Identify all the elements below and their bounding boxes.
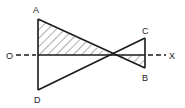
label-C: C — [142, 26, 149, 36]
label-O: O — [6, 51, 13, 61]
label-A: A — [33, 5, 39, 15]
label-B: B — [142, 73, 148, 83]
diagram-canvas: A D C B O X — [0, 0, 185, 108]
label-D: D — [34, 95, 41, 105]
label-X: X — [169, 51, 175, 61]
